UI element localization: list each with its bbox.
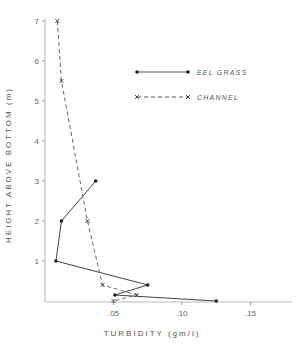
y-tick-label: 2: [35, 217, 40, 226]
dot-marker-icon: [94, 179, 98, 183]
y-tick-label: 3: [35, 177, 40, 186]
dot-marker-icon: [113, 293, 117, 297]
x-tick-label: .15: [245, 309, 257, 318]
series-channel: [55, 19, 138, 303]
dot-marker-icon: [135, 70, 139, 74]
legend: EEL GRASSCHANNEL: [135, 69, 247, 101]
dot-marker-icon: [214, 299, 218, 303]
dot-marker-icon: [146, 283, 150, 287]
dot-marker-icon: [54, 259, 58, 263]
y-tick-label: 7: [35, 17, 40, 26]
y-tick-label: 4: [35, 137, 40, 146]
dot-marker-icon: [60, 219, 64, 223]
y-axis-title: HEIGHT ABOVE BOTTOM (m): [4, 87, 13, 243]
turbidity-chart: 1234567.05.10.15 EEL GRASSCHANNEL TURBID…: [0, 0, 305, 352]
dot-marker-icon: [186, 70, 190, 74]
x-axis-title: TURBIDITY (gm/l): [104, 329, 201, 338]
x-tick-label: .10: [176, 309, 188, 318]
legend-item: EEL GRASS: [135, 69, 247, 76]
y-tick-label: 1: [35, 257, 40, 266]
series-eel-grass: [54, 179, 218, 303]
legend-label: CHANNEL: [197, 94, 239, 101]
y-tick-label: 6: [35, 57, 40, 66]
series-layer: [54, 19, 218, 303]
axes: 1234567.05.10.15: [35, 17, 292, 318]
x-tick-label: .05: [108, 309, 120, 318]
y-tick-label: 5: [35, 97, 40, 106]
legend-label: EEL GRASS: [197, 69, 247, 76]
legend-item: CHANNEL: [135, 94, 239, 101]
